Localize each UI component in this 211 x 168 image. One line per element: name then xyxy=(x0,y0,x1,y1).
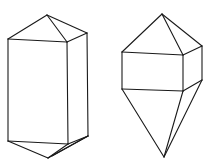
crystal-edge xyxy=(162,14,183,55)
crystal-edge xyxy=(122,14,162,52)
crystal-edge xyxy=(8,141,48,158)
crystal-edge xyxy=(8,39,67,42)
prismatic-crystal xyxy=(8,15,88,158)
crystal-edge xyxy=(67,42,68,144)
crystal-edge xyxy=(8,141,68,144)
crystal-edge xyxy=(122,89,164,157)
crystal-edge xyxy=(67,33,87,42)
crystal-edge xyxy=(87,33,88,136)
crystal-edge xyxy=(183,46,202,55)
crystal-diagram xyxy=(0,0,211,168)
crystal-edge xyxy=(122,52,183,55)
bipyramidal-crystal xyxy=(122,14,202,157)
crystal-edge xyxy=(52,136,88,156)
crystal-edge xyxy=(122,89,183,91)
crystal-edge xyxy=(8,15,47,39)
crystal-edge xyxy=(162,14,202,46)
